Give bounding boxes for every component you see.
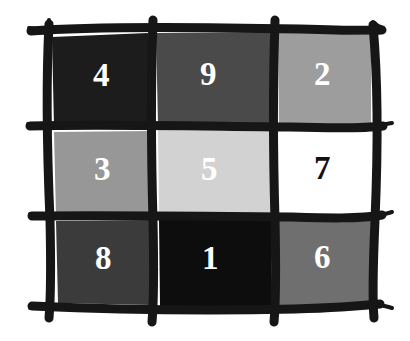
grid-line-vertical-2: [274, 20, 276, 322]
cell-fill-1: [159, 219, 271, 306]
grid-line-vertical-right: [373, 25, 377, 318]
stroke-tail-bottom-left: [30, 307, 50, 308]
grid-line-horizontal-1: [30, 125, 383, 128]
cell-fill-2: [278, 32, 371, 126]
cell-fill-3: [54, 131, 151, 216]
cell-fill-4: [52, 33, 150, 127]
grid-drawing: [0, 0, 410, 341]
cell-fill-9: [156, 32, 271, 125]
grid-line-vertical-1: [152, 20, 154, 322]
cell-fills: [52, 32, 371, 306]
stroke-tail-left-mid2: [30, 214, 52, 216]
grid-line-vertical-left: [47, 24, 50, 318]
cell-fill-8: [56, 220, 152, 305]
stroke-tail-left-mid1: [28, 124, 50, 126]
cell-fill-7: [279, 130, 371, 215]
magic-square-figure: 4 9 2 3 5 7 8 1 6: [0, 0, 410, 341]
cell-fill-5: [158, 130, 271, 215]
grid-line-horizontal-2: [32, 215, 382, 218]
cell-fill-6: [279, 219, 371, 306]
grid-line-horizontal-top: [31, 27, 382, 31]
